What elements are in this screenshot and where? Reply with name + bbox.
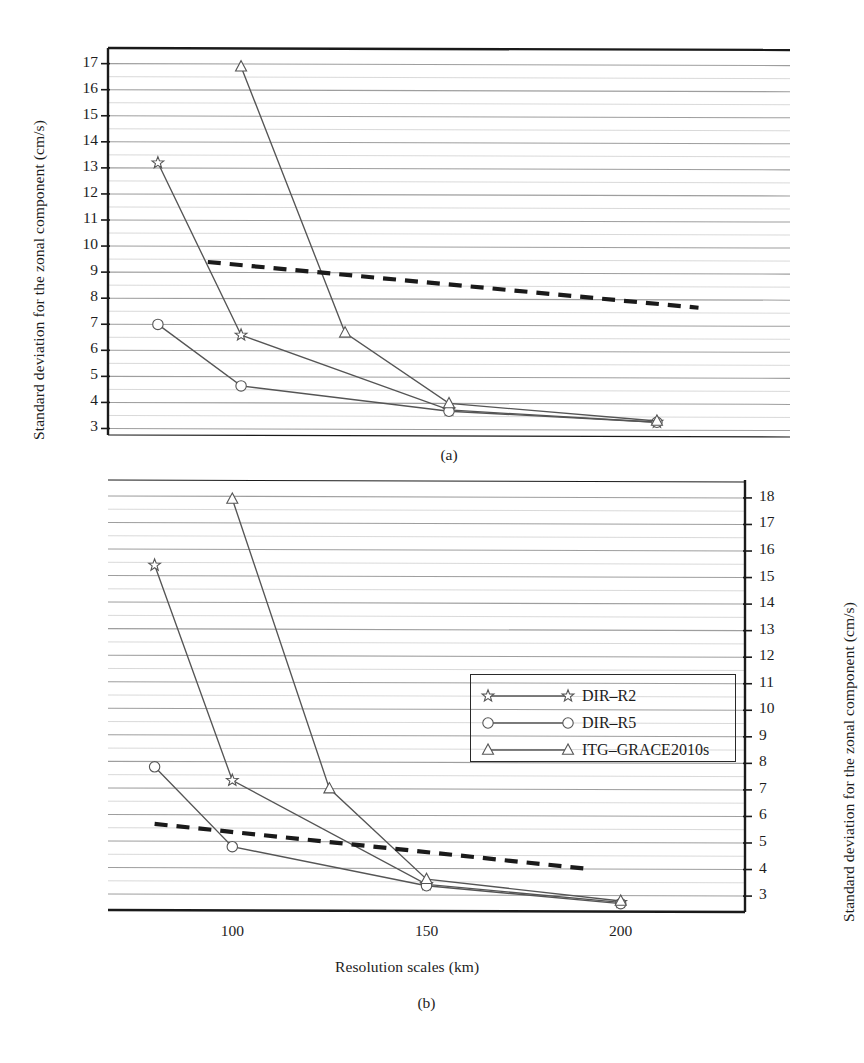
y-tick-label: 7 <box>60 313 98 331</box>
y-tick-label: 3 <box>759 885 797 903</box>
y-tick-label: 7 <box>759 779 797 797</box>
triangle-marker <box>324 783 335 793</box>
panel-b-y-axis-title: Standard deviation for the zonal compone… <box>840 602 858 922</box>
series-dir-r2 <box>152 157 663 428</box>
y-tick-label: 12 <box>759 646 797 664</box>
series-itg-grace2010s <box>236 61 663 426</box>
y-tick-label: 16 <box>60 79 98 97</box>
legend-item-itg-grace2010s[interactable]: ITG–GRACE2010s <box>480 736 709 764</box>
series-trend <box>208 262 699 308</box>
y-tick-label: 6 <box>759 805 797 823</box>
y-tick-label: 5 <box>759 832 797 850</box>
y-tick-label: 3 <box>60 417 98 435</box>
y-tick-label: 9 <box>759 726 797 744</box>
y-tick-label: 10 <box>759 699 797 717</box>
star-marker <box>226 774 238 785</box>
y-tick-label: 4 <box>759 859 797 877</box>
legend-item-dir-r2[interactable]: DIR–R2 <box>480 682 636 710</box>
series-dir-r5 <box>149 762 625 909</box>
y-tick-label: 8 <box>759 752 797 770</box>
y-tick-label: 4 <box>60 391 98 409</box>
axis-spines <box>108 48 790 437</box>
y-tick-label: 18 <box>759 487 797 505</box>
series-dir-r5 <box>153 319 662 427</box>
y-tick-label: 11 <box>60 209 98 227</box>
legend-sample-triangle-marker <box>480 741 576 759</box>
star-marker <box>562 690 574 701</box>
circle-marker <box>149 762 159 772</box>
star-marker <box>235 329 247 340</box>
y-tick-label: 14 <box>60 131 98 149</box>
series-trend <box>155 824 590 869</box>
y-tick-label: 14 <box>759 593 797 611</box>
triangle-marker <box>443 397 454 407</box>
y-tick-label: 6 <box>60 339 98 357</box>
circle-marker <box>236 381 246 391</box>
star-marker <box>149 559 161 570</box>
legend-label: DIR–R2 <box>582 687 636 705</box>
triangle-marker <box>227 493 238 503</box>
y-tick-label: 13 <box>60 157 98 175</box>
legend-sample-star-marker <box>480 687 576 705</box>
y-tick-label: 12 <box>60 183 98 201</box>
y-tick-label: 17 <box>60 53 98 71</box>
panel-a-y-axis-title: Standard deviation for the zonal compone… <box>30 120 48 440</box>
y-tick-label: 16 <box>759 540 797 558</box>
legend-label: DIR–R5 <box>582 714 636 732</box>
y-tick-label: 11 <box>759 673 797 691</box>
circle-marker <box>483 718 493 728</box>
y-tick-label: 13 <box>759 620 797 638</box>
chart-panel-a: Standard deviation for the zonal compone… <box>0 0 864 480</box>
panel-b-x-axis-title: Resolution scales (km) <box>335 958 479 976</box>
y-tick-label: 10 <box>60 235 98 253</box>
y-tick-label: 15 <box>60 105 98 123</box>
legend-item-dir-r5[interactable]: DIR–R5 <box>480 709 636 737</box>
circle-marker <box>153 319 163 329</box>
legend-sample-circle-marker <box>480 714 576 732</box>
star-marker <box>152 157 164 168</box>
y-tick-label: 15 <box>759 567 797 585</box>
y-tick-label: 17 <box>759 513 797 531</box>
triangle-marker <box>482 744 493 754</box>
star-marker <box>482 690 494 701</box>
y-tick-label: 9 <box>60 261 98 279</box>
triangle-marker <box>236 61 247 71</box>
legend-label: ITG–GRACE2010s <box>582 741 709 759</box>
triangle-marker <box>562 744 573 754</box>
circle-marker <box>563 718 573 728</box>
y-tick-label: 8 <box>60 287 98 305</box>
circle-marker <box>227 841 237 851</box>
triangle-marker <box>340 327 351 337</box>
chart-panel-b: Standard deviation for the zonal compone… <box>0 462 864 1063</box>
x-tick-label: 150 <box>397 922 457 940</box>
plot-svg-a <box>108 48 790 435</box>
panel-b-sublabel: (b) <box>367 994 487 1012</box>
x-tick-label: 100 <box>202 922 262 940</box>
panel-a-plot-area <box>108 48 790 435</box>
x-tick-label: 200 <box>591 922 651 940</box>
figure-container: Standard deviation for the zonal compone… <box>0 0 864 1063</box>
y-tick-label: 5 <box>60 365 98 383</box>
gridlines <box>108 64 790 431</box>
